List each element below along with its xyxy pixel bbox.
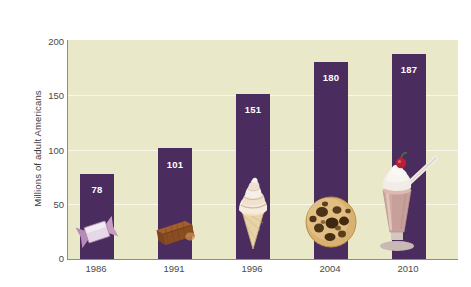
y-axis-tick-labels: 200 150 100 50 0 [32, 0, 64, 287]
bar-2004[interactable] [314, 62, 348, 259]
plot-area: 78 101 [67, 40, 458, 260]
x-tick-label-1986: 1986 [66, 263, 126, 274]
bar-value-2004: 180 [314, 72, 348, 83]
bar-2010[interactable] [392, 54, 426, 259]
bars-layer: 78 101 [68, 40, 458, 259]
x-tick-label-1996: 1996 [222, 263, 282, 274]
y-tick-label-0: 0 [34, 254, 64, 264]
bar-value-1986: 78 [80, 184, 114, 195]
bar-1996[interactable] [236, 94, 270, 259]
x-tick-label-1991: 1991 [144, 263, 204, 274]
x-axis-tick-labels: 1986 1991 1996 2004 2010 [67, 263, 457, 283]
bar-value-2010: 187 [392, 64, 426, 75]
x-tick-label-2004: 2004 [300, 263, 360, 274]
y-tick-label-100: 100 [34, 146, 64, 156]
y-tick-label-200: 200 [34, 37, 64, 47]
bar-value-1991: 101 [158, 159, 192, 170]
bar-chart: Millions of adult Americans 200 150 100 … [0, 0, 471, 287]
bar-value-1996: 151 [236, 104, 270, 115]
y-tick-label-50: 50 [34, 200, 64, 210]
x-tick-label-2010: 2010 [378, 263, 438, 274]
y-tick-label-150: 150 [34, 91, 64, 101]
